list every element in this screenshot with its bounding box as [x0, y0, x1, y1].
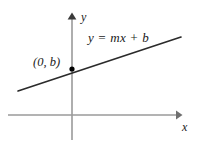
y-intercept-label: (0, b): [33, 56, 60, 69]
y-intercept-point-marker: [69, 66, 74, 71]
x-axis-group: [8, 111, 183, 120]
y-axis-label: y: [81, 11, 86, 23]
coordinate-plane-svg: [0, 0, 207, 144]
x-axis-label: x: [182, 121, 187, 133]
linear-function-figure: y = mx + b (0, b) y x: [0, 0, 207, 144]
x-axis-arrowhead-icon: [176, 111, 183, 120]
equation-label: y = mx + b: [88, 31, 149, 44]
y-axis-arrowhead-icon: [68, 13, 77, 20]
y-axis-group: [68, 13, 77, 141]
